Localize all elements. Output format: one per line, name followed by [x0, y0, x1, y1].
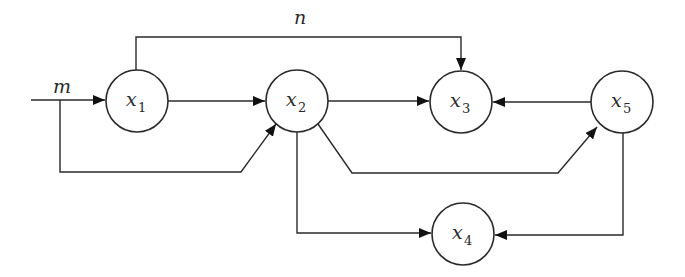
node-x4: x 4	[432, 203, 494, 265]
svg-text:x: x	[452, 221, 463, 243]
edge-x5-to-x4	[495, 133, 623, 235]
svg-text:x: x	[126, 88, 137, 110]
node-x2: x 2	[266, 70, 328, 132]
node-x5: x 5	[591, 71, 653, 133]
svg-text:x: x	[611, 89, 622, 111]
svg-text:x: x	[286, 88, 297, 110]
node-x3: x 3	[430, 71, 492, 133]
node-x1: x 1	[106, 70, 168, 132]
svg-text:2: 2	[298, 100, 306, 115]
svg-text:5: 5	[623, 101, 631, 116]
edge-x1-to-x3	[136, 37, 461, 70]
edge-input-to-x2	[60, 100, 276, 172]
svg-text:4: 4	[464, 233, 472, 248]
edge-label-n: n	[294, 6, 306, 28]
svg-text:x: x	[450, 89, 461, 111]
svg-text:3: 3	[462, 101, 470, 116]
input-label-m: m	[53, 75, 71, 97]
edge-x2-to-x4	[297, 132, 431, 233]
signal-flow-diagram: m n x 1 x 2 x 3 x 4 x 5	[0, 0, 685, 277]
svg-text:1: 1	[138, 100, 146, 115]
